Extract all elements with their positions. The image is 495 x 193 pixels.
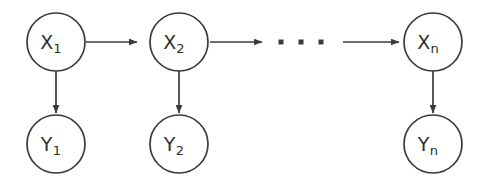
ellipsis-dot: [279, 40, 284, 45]
node-label-base: X: [40, 31, 53, 53]
node-label-subscript: n: [430, 143, 438, 158]
observed-node-y2[interactable]: Y2: [150, 115, 208, 173]
emission-arrow-group: [56, 71, 433, 113]
hidden-state-node-x1[interactable]: X1: [27, 13, 85, 71]
node-label-base: Y: [417, 133, 430, 155]
node-label-subscript: 1: [53, 143, 61, 158]
hmm-diagram-svg: X1 X2 Xn Y1 Y2: [0, 0, 495, 193]
observed-node-yn[interactable]: Yn: [404, 115, 462, 173]
observed-node-y1[interactable]: Y1: [27, 115, 85, 173]
node-label-base: X: [163, 31, 176, 53]
hmm-diagram-canvas: X1 X2 Xn Y1 Y2: [0, 0, 495, 193]
node-label-base: Y: [163, 133, 176, 155]
ellipsis-dot: [299, 40, 304, 45]
node-label-base: Y: [40, 133, 53, 155]
node-label-subscript: 2: [176, 41, 184, 56]
node-label-subscript: n: [430, 41, 438, 56]
ellipsis-dot: [319, 40, 324, 45]
node-label-base: X: [417, 31, 430, 53]
hidden-state-node-x2[interactable]: X2: [150, 13, 208, 71]
chain-ellipsis-icon: [279, 40, 324, 45]
node-label-subscript: 2: [176, 143, 184, 158]
hidden-state-node-xn[interactable]: Xn: [404, 13, 462, 71]
node-label-subscript: 1: [53, 41, 61, 56]
